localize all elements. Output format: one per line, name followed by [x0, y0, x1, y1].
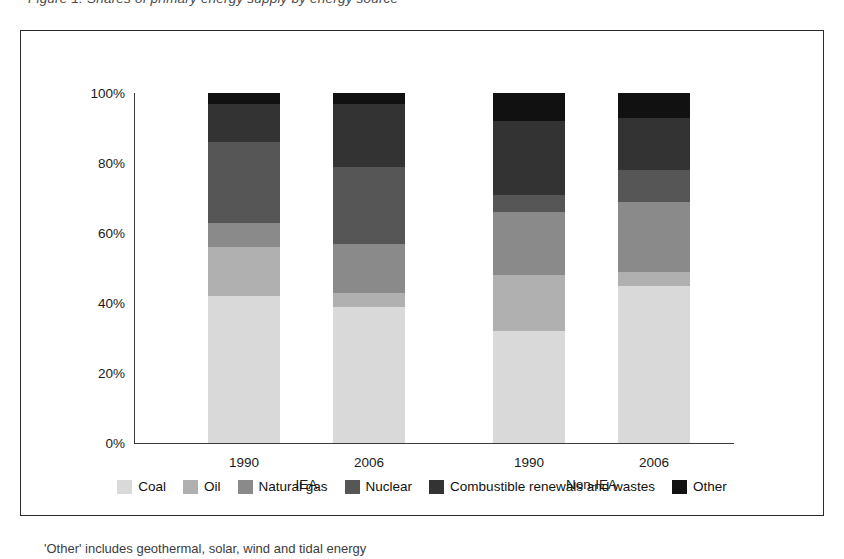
- legend-swatch: [238, 480, 253, 494]
- y-axis-tick-label: 100%: [90, 86, 125, 101]
- footnote: 'Other' includes geothermal, solar, wind…: [44, 541, 804, 559]
- legend-swatch: [672, 480, 687, 494]
- x-axis-tick-label: 1990: [208, 455, 280, 470]
- legend-item[interactable]: Natural gas: [238, 479, 328, 494]
- plot-area: 0%20%40%60%80%100% 1990200619902006 IEAN…: [134, 93, 734, 443]
- y-axis-tick-label: 80%: [98, 156, 125, 171]
- bar-segment[interactable]: [618, 272, 690, 286]
- legend-swatch: [117, 480, 132, 494]
- y-axis-tick-label: 60%: [98, 226, 125, 241]
- bar-series-container: [134, 93, 734, 443]
- bar-stack: [618, 93, 690, 443]
- bar-segment[interactable]: [208, 247, 280, 296]
- legend-label: Combustible renewals and wastes: [450, 479, 655, 494]
- bar-segment[interactable]: [333, 307, 405, 444]
- x-axis-line: [134, 443, 734, 444]
- legend-label: Nuclear: [366, 479, 413, 494]
- bar-stack: [493, 93, 565, 443]
- bar-column[interactable]: [618, 93, 690, 443]
- bar-segment[interactable]: [618, 202, 690, 272]
- chart-legend: CoalOilNatural gasNuclearCombustible ren…: [21, 479, 823, 494]
- legend-label: Oil: [204, 479, 221, 494]
- bar-segment[interactable]: [333, 244, 405, 293]
- bar-stack: [208, 93, 280, 443]
- bar-segment[interactable]: [333, 93, 405, 104]
- y-axis-tick-label: 40%: [98, 296, 125, 311]
- legend-label: Coal: [138, 479, 166, 494]
- legend-label: Other: [693, 479, 727, 494]
- bar-column[interactable]: [333, 93, 405, 443]
- x-axis-tick-label: 2006: [618, 455, 690, 470]
- bar-segment[interactable]: [208, 104, 280, 143]
- bar-segment[interactable]: [493, 331, 565, 443]
- figure-frame: 0%20%40%60%80%100% 1990200619902006 IEAN…: [20, 30, 824, 516]
- bar-segment[interactable]: [333, 167, 405, 244]
- x-axis-tick-label: 2006: [333, 455, 405, 470]
- y-axis-tick-label: 0%: [105, 436, 125, 451]
- legend-swatch: [429, 480, 444, 494]
- bar-segment[interactable]: [208, 223, 280, 248]
- legend-label: Natural gas: [259, 479, 328, 494]
- figure-page: Figure 1: Shares of primary energy suppl…: [0, 0, 844, 559]
- legend-item[interactable]: Other: [672, 479, 727, 494]
- bar-segment[interactable]: [333, 104, 405, 167]
- bar-segment[interactable]: [493, 212, 565, 275]
- legend-swatch: [183, 480, 198, 494]
- y-axis-tick-label: 20%: [98, 366, 125, 381]
- legend-item[interactable]: Combustible renewals and wastes: [429, 479, 655, 494]
- legend-item[interactable]: Oil: [183, 479, 221, 494]
- bar-segment[interactable]: [618, 118, 690, 171]
- bar-segment[interactable]: [208, 296, 280, 443]
- bar-segment[interactable]: [208, 93, 280, 104]
- bar-segment[interactable]: [493, 275, 565, 331]
- bar-segment[interactable]: [493, 195, 565, 213]
- bar-segment[interactable]: [618, 286, 690, 444]
- bar-segment[interactable]: [208, 142, 280, 223]
- bar-column[interactable]: [493, 93, 565, 443]
- legend-swatch: [345, 480, 360, 494]
- bar-segment[interactable]: [618, 170, 690, 202]
- bar-stack: [333, 93, 405, 443]
- bar-segment[interactable]: [618, 93, 690, 118]
- legend-item[interactable]: Coal: [117, 479, 166, 494]
- x-axis-tick-label: 1990: [493, 455, 565, 470]
- top-caption: Figure 1: Shares of primary energy suppl…: [28, 0, 728, 9]
- bar-segment[interactable]: [493, 93, 565, 121]
- bar-segment[interactable]: [493, 121, 565, 195]
- bar-segment[interactable]: [333, 293, 405, 307]
- bar-column[interactable]: [208, 93, 280, 443]
- legend-item[interactable]: Nuclear: [345, 479, 413, 494]
